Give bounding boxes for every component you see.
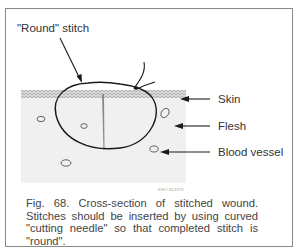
label-round-stitch: "Round" stitch [17,22,89,34]
arrow-icon [77,74,83,83]
label-flesh: Flesh [218,120,246,132]
label-skin: Skin [218,93,240,105]
label-blood-vessel: Blood vessel [218,146,283,158]
figure-code: KHO 851875 [158,187,184,192]
figure-caption: Fig. 68. Cross-section of stitched wound… [26,197,258,247]
